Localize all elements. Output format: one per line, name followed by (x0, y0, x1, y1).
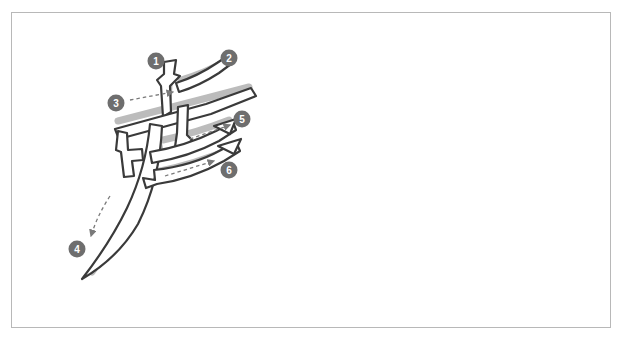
stroke-marker-3[interactable]: 3 (108, 95, 125, 112)
arrow-stroke-4 (91, 196, 110, 236)
arrow-stroke-5 (190, 125, 230, 139)
arrow-stroke-6 (165, 161, 214, 176)
arrow-stroke-3 (130, 92, 173, 100)
stroke-marker-6[interactable]: 6 (221, 162, 238, 179)
stroke-order-page: 1 2 3 4 5 6 (0, 0, 626, 345)
stroke-marker-5[interactable]: 5 (234, 111, 251, 128)
stroke-marker-1[interactable]: 1 (148, 53, 165, 70)
stroke-marker-4[interactable]: 4 (69, 241, 86, 258)
glyph-drawing-area: 1 2 3 4 5 6 (0, 0, 626, 345)
direction-arrows (0, 0, 626, 345)
stroke-marker-2[interactable]: 2 (221, 50, 238, 67)
